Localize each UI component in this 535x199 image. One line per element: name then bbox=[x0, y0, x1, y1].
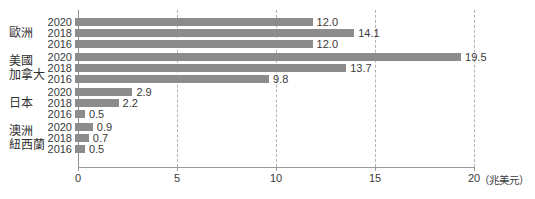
bar-value-label: 12.0 bbox=[317, 38, 338, 50]
bar-value-label: 13.7 bbox=[350, 62, 371, 74]
tick-mark bbox=[375, 168, 376, 171]
bar-value-label: 12.0 bbox=[317, 16, 338, 28]
bar bbox=[75, 145, 85, 153]
bar-group: 日本20202.920182.220160.5 bbox=[0, 88, 535, 118]
tick-mark bbox=[177, 168, 178, 171]
bar-group: 歐洲202012.0201814.1201612.0 bbox=[0, 18, 535, 48]
tick-label: 10 bbox=[270, 172, 282, 184]
bar bbox=[75, 110, 85, 118]
bar bbox=[75, 53, 461, 61]
tick-mark bbox=[474, 168, 475, 171]
bar-row: 201814.1 bbox=[0, 29, 535, 37]
bar-group: 澳洲 紐西蘭20200.920180.720160.5 bbox=[0, 123, 535, 153]
bar-row: 20200.9 bbox=[0, 123, 535, 131]
bar-value-label: 2.2 bbox=[123, 97, 138, 109]
bar-value-label: 0.5 bbox=[89, 143, 104, 155]
bar-group: 美國 加拿大202019.5201813.720169.8 bbox=[0, 53, 535, 83]
bar bbox=[75, 75, 269, 83]
bar bbox=[75, 64, 346, 72]
bar-row: 20202.9 bbox=[0, 88, 535, 96]
bar bbox=[75, 134, 89, 142]
bar bbox=[75, 18, 313, 26]
bar-groups: 歐洲202012.0201814.1201612.0美國 加拿大202019.5… bbox=[0, 18, 535, 158]
bar-value-label: 0.5 bbox=[89, 108, 104, 120]
bar bbox=[75, 40, 313, 48]
bar-row: 20160.5 bbox=[0, 110, 535, 118]
bar-row: 20169.8 bbox=[0, 75, 535, 83]
bar-value-label: 14.1 bbox=[358, 27, 379, 39]
bar bbox=[75, 88, 132, 96]
bar-row: 20180.7 bbox=[0, 134, 535, 142]
bar-chart: 歐洲202012.0201814.1201612.0美國 加拿大202019.5… bbox=[0, 0, 535, 199]
bar bbox=[75, 123, 93, 131]
tick-mark bbox=[276, 168, 277, 171]
bar-row: 202012.0 bbox=[0, 18, 535, 26]
group-label: 日本 bbox=[9, 96, 33, 110]
group-label: 澳洲 紐西蘭 bbox=[9, 124, 45, 152]
group-label: 美國 加拿大 bbox=[9, 54, 45, 82]
bar-row: 201612.0 bbox=[0, 40, 535, 48]
bar bbox=[75, 99, 119, 107]
tick-label: 5 bbox=[174, 172, 180, 184]
tick-mark bbox=[78, 168, 79, 171]
bar-value-label: 9.8 bbox=[273, 73, 288, 85]
bar bbox=[75, 29, 354, 37]
tick-label: 15 bbox=[369, 172, 381, 184]
bar-value-label: 2.9 bbox=[136, 86, 151, 98]
bar-row: 201813.7 bbox=[0, 64, 535, 72]
group-label: 歐洲 bbox=[9, 26, 33, 40]
bar-row: 202019.5 bbox=[0, 53, 535, 61]
bar-row: 20160.5 bbox=[0, 145, 535, 153]
bar-value-label: 19.5 bbox=[465, 51, 486, 63]
tick-label: 0 bbox=[75, 172, 81, 184]
bar-row: 20182.2 bbox=[0, 99, 535, 107]
axis-unit-label: （兆美元） bbox=[479, 172, 529, 187]
